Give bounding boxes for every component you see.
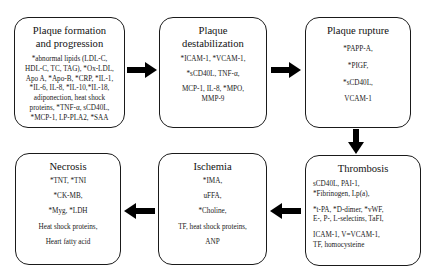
biomarker-line: *PAPP-A, xyxy=(309,45,407,55)
biomarker-line: *IL-6, IL-8, *IL-10,*IL-18, xyxy=(18,84,121,94)
biomarker-line: Heat shock proteins, xyxy=(19,223,117,233)
biomarker-line: ICAM-1, V=VCAM-1, xyxy=(309,231,417,241)
stage-title: Plaque rupture xyxy=(309,24,407,37)
arrow-down-icon xyxy=(348,129,364,154)
biomarker-line: *ICAM-1, *VCAM-1, xyxy=(163,55,263,65)
biomarker-line: *sCD40L, TNF-α, xyxy=(163,70,263,80)
biomarker-line: Apo A, *Apo-B, *CRP, *IL-1, xyxy=(18,75,121,85)
biomarker-line: Heart fatty acid xyxy=(19,238,117,248)
biomarker-line: HDL-C, TC, TAG), *Ox-LDL, xyxy=(18,65,121,75)
biomarker-line: TF, heat shock proteins, xyxy=(162,223,263,233)
biomarker-line: *Myg, *LDH xyxy=(19,207,117,217)
stage-plaque-destabilization: Plaque destabilization *ICAM-1, *VCAM-1,… xyxy=(159,17,267,128)
stage-ischemia: Ischemia *IMA, uFFA, *Choline, TF, heat … xyxy=(158,153,267,265)
title-line: Plaque xyxy=(163,24,263,37)
title-line: Plaque rupture xyxy=(309,24,407,37)
biomarker-line: uFFA, xyxy=(162,192,263,202)
biomarker-line: ANP xyxy=(162,238,263,248)
biomarker-line: *Choline, xyxy=(162,207,263,217)
stage-title: Plaque formation and progression xyxy=(18,24,121,50)
biomarker-line: MMP-9 xyxy=(163,95,263,105)
title-line: and progression xyxy=(18,37,121,50)
stage-title: Necrosis xyxy=(19,160,117,173)
biomarker-line: *MCP-1, LP-PLA2, *SAA xyxy=(18,114,121,124)
title-line: Necrosis xyxy=(19,160,117,173)
title-line: Plaque formation xyxy=(18,24,121,37)
biomarker-line: *sCD40L, xyxy=(309,79,407,89)
stage-necrosis: Necrosis *TNT, *TNI *CK-MB, *Myg, *LDH H… xyxy=(15,153,121,265)
arrow-right-icon xyxy=(271,62,301,78)
biomarker-line: adiponection, heat shock xyxy=(18,94,121,104)
biomarker-line: *PIGF, xyxy=(309,62,407,72)
title-line: destabilization xyxy=(163,37,263,50)
stage-title: Thrombosis xyxy=(309,162,417,175)
arrow-left-icon xyxy=(270,203,301,219)
biomarker-line: *CK-MB, xyxy=(19,192,117,202)
biomarker-line: *IMA, xyxy=(162,177,263,187)
biomarker-line: *TNT, *TNI xyxy=(19,177,117,187)
biomarker-line: *Fibrinogen, Lp(a), xyxy=(309,190,417,200)
biomarker-line: *abnormal lipids (LDL-C, xyxy=(18,55,121,65)
title-line: Thrombosis xyxy=(309,162,417,175)
title-line: Ischemia xyxy=(162,160,263,173)
biomarker-line: TF, homocysteine xyxy=(309,241,417,251)
biomarker-line: sCD40L, PAI-1, xyxy=(309,180,417,190)
stage-title: Ischemia xyxy=(162,160,263,173)
arrow-right-icon xyxy=(127,62,157,78)
biomarker-line: MCP-1, IL-8, *MPO, xyxy=(163,85,263,95)
stage-plaque-rupture: Plaque rupture *PAPP-A, *PIGF, *sCD40L, … xyxy=(305,17,411,128)
biomarker-line: VCAM-1 xyxy=(309,95,407,105)
biomarker-line: proteins, *TNF-α, sCD40L, xyxy=(18,104,121,114)
stage-thrombosis: Thrombosis sCD40L, PAI-1, *Fibrinogen, L… xyxy=(305,155,421,266)
arrow-left-icon xyxy=(124,203,155,219)
biomarker-line: E-, P-, L-selectins, TaFI, xyxy=(309,215,417,225)
stage-title: Plaque destabilization xyxy=(163,24,263,50)
biomarker-line: *t-PA, *D-dimer, *vWF, xyxy=(309,206,417,216)
stage-plaque-formation: Plaque formation and progression *abnorm… xyxy=(14,17,125,128)
